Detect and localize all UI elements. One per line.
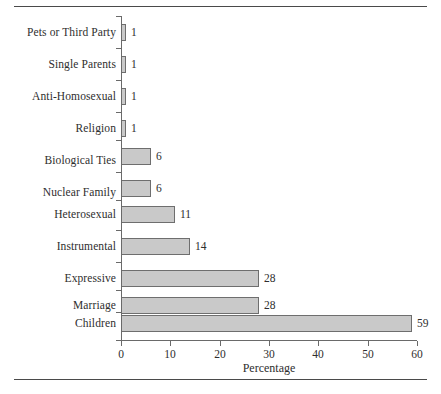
- x-axis-tick: [417, 341, 418, 346]
- y-axis-tick: [116, 112, 121, 113]
- y-axis-tick: [116, 262, 121, 263]
- x-axis-tick: [220, 341, 221, 346]
- category-label: Single Parents: [48, 58, 116, 70]
- bar-value-label: 1: [131, 26, 137, 38]
- y-axis-tick: [116, 290, 121, 291]
- bar-value-label: 28: [264, 299, 276, 311]
- x-axis-tick-label: 30: [254, 348, 284, 360]
- x-axis-tick: [368, 341, 369, 346]
- bar: [121, 148, 151, 165]
- bar-value-label: 1: [131, 58, 137, 70]
- bar-chart: Pets or Third Party Single Parents Anti-…: [0, 0, 441, 394]
- category-label: Expressive: [65, 272, 116, 284]
- bar: [121, 270, 259, 287]
- category-label: Heterosexual: [54, 208, 116, 220]
- y-axis-tick: [116, 16, 121, 17]
- bar-value-label: 14: [195, 240, 207, 252]
- x-axis-tick: [121, 341, 122, 346]
- figure-caption: [16, 384, 426, 393]
- category-label: Children: [75, 317, 116, 329]
- bar-value-label: 1: [131, 122, 137, 134]
- category-label: Marriage: [73, 299, 116, 311]
- x-axis-tick-label: 60: [402, 348, 432, 360]
- bar-value-label: 1: [131, 90, 137, 102]
- bar-value-label: 6: [156, 150, 162, 162]
- category-label: Pets or Third Party: [27, 26, 116, 38]
- bar: [121, 206, 175, 223]
- bar: [121, 238, 190, 255]
- bar-value-label: 11: [180, 208, 191, 220]
- bar-value-label: 28: [264, 272, 276, 284]
- x-axis-title: Percentage: [121, 362, 417, 375]
- x-axis-tick: [170, 341, 171, 346]
- y-axis-tick: [116, 200, 121, 201]
- category-label: Religion: [76, 122, 116, 134]
- bar: [121, 180, 151, 197]
- category-label: Anti-Homosexual: [32, 90, 116, 102]
- x-axis-tick-label: 40: [303, 348, 333, 360]
- x-axis-tick-label: 0: [106, 348, 136, 360]
- x-axis-tick: [269, 341, 270, 346]
- category-label: Nuclear Family: [43, 186, 116, 198]
- category-label: Instrumental: [57, 240, 116, 252]
- bar-value-label: 59: [417, 317, 429, 329]
- x-axis-tick-label: 10: [155, 348, 185, 360]
- x-axis-tick-label: 20: [205, 348, 235, 360]
- y-axis-line: [121, 16, 122, 340]
- y-axis-tick: [116, 230, 121, 231]
- y-axis-tick: [116, 140, 121, 141]
- y-axis-tick: [116, 172, 121, 173]
- y-axis-tick: [116, 48, 121, 49]
- figure-bottom-rule: [14, 379, 427, 380]
- category-label: Biological Ties: [45, 154, 116, 166]
- y-axis-tick: [116, 80, 121, 81]
- bar: [121, 297, 259, 314]
- x-axis-tick-label: 50: [353, 348, 383, 360]
- x-axis-tick: [318, 341, 319, 346]
- bar: [121, 315, 412, 332]
- y-axis-tick: [116, 312, 121, 313]
- bar-value-label: 6: [156, 182, 162, 194]
